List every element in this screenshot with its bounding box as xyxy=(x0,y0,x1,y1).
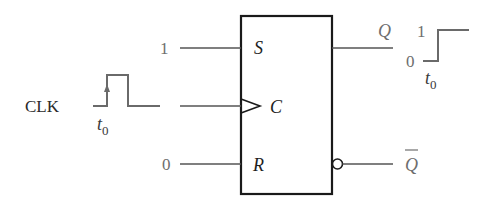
clk-label: CLK xyxy=(25,97,60,116)
q-wave-time-label: t0 xyxy=(425,68,437,92)
clock-pulse-waveform xyxy=(93,75,160,106)
clk-time-sub: 0 xyxy=(102,123,109,138)
q-wave-time-sub: 0 xyxy=(430,77,437,92)
sr-flip-flop-diagram: 1 S C 0 R CLK t0 Q Q 1 0 t0 xyxy=(0,0,494,205)
inversion-bubble-icon xyxy=(333,159,343,169)
q-output-label: Q xyxy=(378,21,391,41)
q-output-waveform xyxy=(423,30,469,61)
clock-triangle-icon xyxy=(241,99,260,113)
s-input-value: 1 xyxy=(160,39,169,58)
q-wave-high-label: 1 xyxy=(417,22,426,41)
qbar-output-label: Q xyxy=(405,155,418,175)
rising-edge-arrow-icon xyxy=(104,84,110,92)
s-pin-label: S xyxy=(254,38,263,58)
clk-time-label: t0 xyxy=(97,114,109,138)
r-pin-label: R xyxy=(252,155,264,175)
r-input-value: 0 xyxy=(162,155,171,174)
c-pin-label: C xyxy=(270,97,283,117)
q-wave-low-label: 0 xyxy=(406,52,415,71)
